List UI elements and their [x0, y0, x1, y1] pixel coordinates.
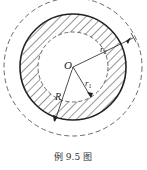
center-label: O	[64, 59, 72, 71]
annulus-diagram: O R r1 r2 例 9.5 图	[0, 0, 147, 170]
R-label: R	[54, 91, 61, 102]
figure-caption: 例 9.5 图	[54, 151, 92, 162]
hatched-region	[0, 0, 147, 170]
